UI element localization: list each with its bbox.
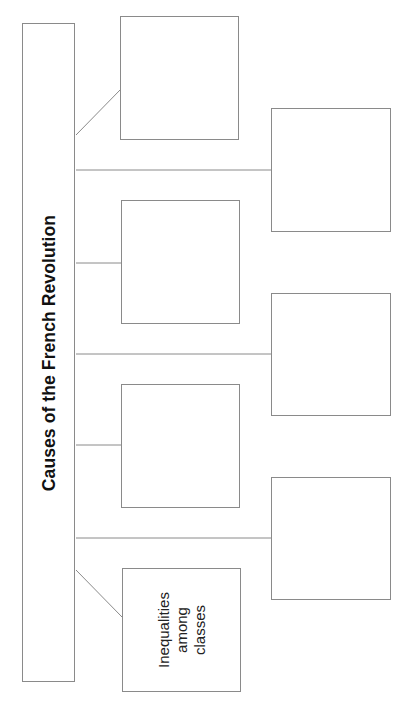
cause-7-line-1: Inequalities — [155, 592, 173, 668]
main-topic-bar: Causes of the French Revolution — [22, 23, 75, 682]
connector-cause-7 — [76, 570, 122, 617]
cause-box-2[interactable] — [271, 108, 391, 232]
causes-graphic-organizer: Causes of the French Revolution Inequali… — [0, 0, 411, 720]
cause-box-4[interactable] — [271, 293, 391, 416]
diagram-title: Causes of the French Revolution — [38, 214, 59, 490]
cause-box-5[interactable] — [121, 384, 240, 508]
cause-7-line-2: among — [173, 592, 191, 668]
cause-box-6[interactable] — [271, 477, 391, 600]
connector-cause-1 — [76, 89, 121, 135]
cause-box-1[interactable] — [120, 16, 239, 140]
cause-box-7-text: Inequalities among classes — [155, 592, 209, 668]
cause-box-3[interactable] — [121, 200, 240, 324]
cause-box-7[interactable]: Inequalities among classes — [122, 568, 241, 692]
cause-7-line-3: classes — [191, 592, 209, 668]
